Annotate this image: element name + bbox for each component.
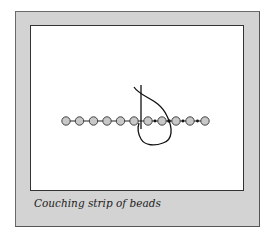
- couching-thread-loop: [134, 87, 171, 145]
- figure-frame: Couching strip of beads: [15, 11, 260, 227]
- figure-caption: Couching strip of beads: [34, 197, 161, 209]
- bead: [158, 117, 166, 125]
- bead: [186, 117, 194, 125]
- couching-beads-illustration: [31, 26, 245, 192]
- bead: [75, 117, 83, 125]
- bead: [103, 117, 111, 125]
- bead: [62, 117, 70, 125]
- illustration-panel: [30, 25, 244, 191]
- bead: [89, 117, 97, 125]
- bead-strip: [62, 117, 209, 125]
- bead: [144, 117, 152, 125]
- bead: [201, 117, 209, 125]
- bead: [116, 117, 124, 125]
- bead: [130, 117, 138, 125]
- bead: [172, 117, 180, 125]
